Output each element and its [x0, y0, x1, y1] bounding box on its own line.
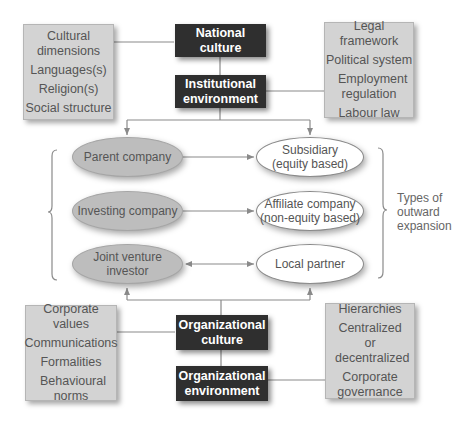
joint-venture-investor-node: Joint venture investor [72, 244, 183, 284]
local-partner-label: Local partner [275, 257, 345, 271]
factor-employment-regulation: Employment regulation [338, 72, 400, 102]
factor-languages: Languages(s) [30, 63, 106, 78]
brace-label-line2: outward [397, 205, 452, 219]
institutional-factors-box: Legal framework Political system Employm… [324, 22, 414, 118]
org-environment-line2: environment [184, 384, 259, 399]
factor-communications: Communications [24, 336, 117, 351]
subsidiary-sublabel: (equity based) [272, 157, 348, 171]
brace-label-line3: expansion [397, 219, 452, 233]
org-environment-line1: Organizational [179, 369, 266, 384]
affiliate-sublabel: (non-equity based) [260, 211, 360, 225]
factor-legal-framework: Legal framework [325, 19, 413, 49]
org-culture-line1: Organizational [179, 318, 266, 333]
local-partner-node: Local partner [256, 244, 364, 284]
investing-company-node: Investing company [72, 191, 183, 231]
organizational-culture-factors-box: Corporate values Communications Formalit… [25, 305, 117, 401]
factor-behavioural-norms: Behavioural norms [40, 374, 102, 404]
affiliate-company-node: Affiliate company (non-equity based) [256, 191, 364, 231]
types-of-outward-expansion-label: Types of outward expansion [397, 191, 452, 233]
parent-company-label: Parent company [84, 150, 171, 164]
factor-corporate-governance: Corporate governance [335, 370, 405, 400]
factor-centralization: Centralized or decentralized [335, 321, 405, 366]
factor-social-structure: Social structure [25, 101, 111, 116]
organizational-culture-node: Organizational culture [176, 315, 268, 350]
investing-company-label: Investing company [77, 204, 177, 218]
joint-venture-investor-label: Joint venture investor [73, 250, 182, 278]
factor-religion: Religion(s) [39, 82, 99, 97]
factor-political-system: Political system [326, 53, 412, 68]
subsidiary-label: Subsidiary [282, 143, 338, 157]
brace-label-line1: Types of [397, 191, 452, 205]
parent-company-node: Parent company [72, 137, 183, 177]
factor-corporate-values: Corporate values [26, 302, 116, 332]
national-culture-label: National culture [175, 26, 266, 56]
factor-hierarchies: Hierarchies [338, 302, 401, 317]
institutional-label-line2: environment [183, 92, 258, 107]
subsidiary-node: Subsidiary (equity based) [256, 137, 364, 177]
institutional-label-line1: Institutional [185, 77, 256, 92]
national-culture-factors-box: Cultural dimensions Languages(s) Religio… [23, 24, 114, 120]
factor-formalities: Formalities [40, 355, 101, 370]
factor-labour-law: Labour law [338, 106, 399, 121]
national-culture-node: National culture [175, 24, 266, 57]
factor-cultural-dimensions: Cultural dimensions [34, 29, 104, 59]
organizational-environment-factors-box: Hierarchies Centralized or decentralized… [325, 303, 415, 399]
organizational-environment-node: Organizational environment [176, 366, 268, 401]
affiliate-label: Affiliate company [264, 197, 355, 211]
org-culture-line2: culture [201, 333, 243, 348]
institutional-environment-node: Institutional environment [175, 75, 266, 108]
